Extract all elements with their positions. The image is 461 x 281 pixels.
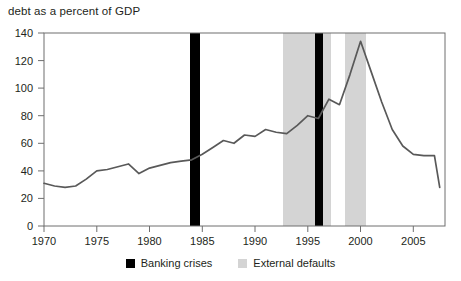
- x-tick-label: 1980: [137, 235, 161, 247]
- legend-label-banking-crises: Banking crises: [141, 258, 213, 269]
- legend-item-banking-crises: Banking crises: [126, 258, 213, 269]
- legend-label-external-defaults: External defaults: [253, 258, 335, 269]
- x-axis-ticks: [44, 226, 413, 232]
- legend-swatch-external-defaults: [238, 259, 247, 268]
- x-tick-label: 1995: [296, 235, 320, 247]
- chart-plot-area: 140 120 100 80 60 40 20 0 1970 1975 1980…: [0, 0, 461, 281]
- y-tick-label: 100: [15, 82, 33, 94]
- shaded-band-external-defaults: [283, 33, 331, 226]
- x-tick-label: 1970: [32, 235, 56, 247]
- shaded-band-external-defaults: [345, 33, 366, 226]
- debt-series-line: [44, 41, 440, 187]
- x-tick-label: 2000: [348, 235, 372, 247]
- chart-legend: Banking crises External defaults: [0, 258, 461, 269]
- y-tick-label: 20: [21, 192, 33, 204]
- y-tick-label: 80: [21, 110, 33, 122]
- y-axis-ticks: [38, 33, 44, 226]
- x-tick-label: 2005: [401, 235, 425, 247]
- chart-figure: debt as a percent of GDP 140 12: [0, 0, 461, 281]
- x-tick-label: 1975: [85, 235, 109, 247]
- y-tick-label: 40: [21, 165, 33, 177]
- shaded-band-banking-crises: [190, 33, 200, 226]
- legend-swatch-banking-crises: [126, 259, 135, 268]
- y-tick-label: 120: [15, 55, 33, 67]
- legend-item-external-defaults: External defaults: [238, 258, 335, 269]
- shaded-band-banking-crises: [315, 33, 323, 226]
- plot-frame: [44, 33, 445, 226]
- x-axis-labels: 1970 1975 1980 1985 1990 1995 2000 2005: [32, 235, 426, 247]
- y-tick-label: 0: [27, 220, 33, 232]
- y-tick-label: 60: [21, 137, 33, 149]
- y-tick-label: 140: [15, 27, 33, 39]
- x-tick-label: 1985: [190, 235, 214, 247]
- y-axis-labels: 140 120 100 80 60 40 20 0: [15, 27, 33, 232]
- x-tick-label: 1990: [243, 235, 267, 247]
